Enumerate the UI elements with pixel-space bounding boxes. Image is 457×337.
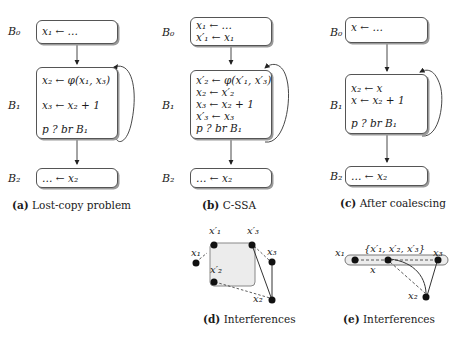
edge-x3-x2	[427, 262, 437, 296]
node-x2	[423, 294, 430, 301]
caption-text: C-SSA	[223, 199, 256, 211]
node-label-x1: x₁	[191, 247, 201, 258]
block-label-b1: B₁	[8, 99, 21, 112]
caption-d: (d) Interferences	[203, 313, 296, 325]
block-b1: x₂ ← φ(x₁, x₃) x₃ ← x₂ + 1 p ? br B₁	[36, 67, 118, 139]
block-label-b0: B₀	[8, 25, 21, 38]
node-x2	[269, 297, 276, 304]
block-b2: … ← x₂	[36, 168, 118, 188]
node-x1p	[211, 242, 218, 249]
node-x1	[352, 257, 359, 264]
node-x1	[193, 260, 200, 267]
block-b2: … ← x₂	[345, 166, 428, 186]
node-label-x2p: x′₂	[210, 264, 222, 275]
caption-e: (e) Interferences	[343, 313, 435, 325]
panel-d-graph	[193, 242, 276, 304]
code-line: p ? br B₁	[42, 123, 88, 136]
block-b2: … ← x₂	[190, 168, 272, 188]
caption-tag: (c)	[340, 197, 356, 209]
caption-text: After coalescing	[360, 197, 446, 209]
node-label-x3: x₃	[433, 247, 443, 258]
caption-text: Lost-copy problem	[32, 199, 131, 211]
caption-tag: (d)	[203, 313, 220, 325]
block-b0: x₁ ← … x′₁ ← x₁	[190, 17, 272, 46]
block-label-b0: B₀	[162, 26, 175, 39]
caption-c: (c) After coalescing	[340, 197, 446, 209]
block-label-b2: B₂	[162, 172, 175, 185]
code-line: p ? br B₁	[196, 122, 242, 135]
caption-a: (a) Lost-copy problem	[12, 199, 131, 211]
panel-e-graph	[345, 255, 448, 301]
code-line: p ? br B₁	[351, 117, 397, 130]
node-label-x2: x₂	[408, 290, 418, 301]
block-b0: x ← …	[345, 17, 428, 43]
group-label-x: x	[370, 264, 376, 275]
node-label-x3p: x′₃	[247, 225, 259, 236]
block-label-b2: B₂	[8, 172, 21, 185]
node-x3p	[249, 242, 256, 249]
node-xp	[385, 257, 392, 264]
node-label-x3: x₃	[267, 246, 277, 257]
code-line: … ← x₂	[351, 170, 387, 183]
code-line: x′₁ ← x₁	[196, 31, 234, 44]
code-line: x₁ ← …	[42, 25, 78, 38]
caption-tag: (e)	[343, 313, 360, 325]
caption-text: Interferences	[363, 313, 435, 325]
block-label-b2: B₂	[330, 170, 343, 183]
code-line: x₂ ← φ(x₁, x₃)	[42, 74, 110, 87]
node-label-xp: {x′₁, x′₂, x′₃}	[364, 243, 425, 254]
node-x3	[269, 259, 276, 266]
code-line: x ← x₂ + 1	[351, 94, 405, 107]
caption-text: Interferences	[224, 313, 296, 325]
caption-b: (b) C-SSA	[202, 199, 256, 211]
caption-tag: (b)	[202, 199, 219, 211]
block-label-b0: B₀	[330, 26, 343, 39]
code-line: x₃ ← x₂ + 1	[42, 99, 100, 112]
node-label-x2: x₂	[253, 293, 263, 304]
code-line: … ← x₂	[196, 172, 232, 185]
block-b1: x′₂ ← φ(x′₁, x′₃) x₂ ← x′₂ x₃ ← x₂ + 1 x…	[190, 70, 272, 139]
node-label-x1p: x′₁	[209, 225, 221, 236]
block-b0: x₁ ← …	[36, 20, 118, 44]
block-label-b1: B₁	[330, 99, 343, 112]
edge-xp-x2-dashed	[390, 262, 425, 293]
block-label-b1: B₁	[162, 99, 175, 112]
caption-tag: (a)	[12, 199, 29, 211]
code-line: … ← x₂	[42, 172, 78, 185]
block-b1: x₂ ← x x ← x₂ + 1 p ? br B₁	[345, 74, 428, 134]
node-x2p	[211, 279, 218, 286]
node-label-x1: x₁	[335, 247, 345, 258]
code-line: x ← …	[351, 21, 383, 34]
